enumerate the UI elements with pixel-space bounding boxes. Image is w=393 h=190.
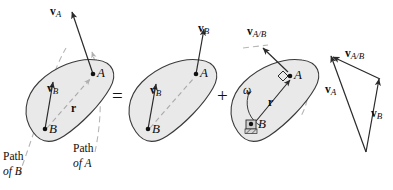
label-vb-panel1: vB xyxy=(47,83,58,96)
rotation-guide-dash-left xyxy=(243,45,268,48)
point-a-dot-2 xyxy=(194,72,199,77)
operator-plus: + xyxy=(217,86,228,105)
label-path-of-b-line2: of B xyxy=(3,166,22,178)
point-b-dot-3 xyxy=(249,122,253,126)
rigid-body-outline-3 xyxy=(231,59,319,141)
point-a-dot-1 xyxy=(91,72,96,77)
operator-equals: = xyxy=(112,86,123,105)
label-point-a-panel1: A xyxy=(97,66,105,79)
label-vb-at-b-panel2: vB xyxy=(150,85,161,98)
label-vb-triangle: vB xyxy=(371,108,382,121)
label-r-panel1: r xyxy=(71,103,76,115)
label-path-of-b-line1: Path xyxy=(3,151,23,163)
label-vab-triangle: vA/B xyxy=(345,48,364,61)
point-b-dot-1 xyxy=(43,127,48,132)
label-vb-at-a-panel2: vB xyxy=(198,23,209,36)
panel-translation xyxy=(129,29,217,141)
label-point-b-panel2: B xyxy=(152,122,160,135)
relative-velocity-figure: vA vB r A B Path of B Path of A = vB vB … xyxy=(0,0,393,190)
label-va-panel1: vA xyxy=(50,6,61,19)
panel-general-plane-motion xyxy=(19,12,114,175)
panel-vector-triangle xyxy=(331,56,380,152)
label-point-a-panel2: A xyxy=(200,66,208,79)
label-point-a-panel3: A xyxy=(294,68,302,81)
label-va-triangle: vA xyxy=(325,84,336,97)
label-r-panel3: r xyxy=(268,97,273,109)
label-path-of-a-line1: Path xyxy=(73,143,93,155)
label-point-b-panel3: B xyxy=(258,117,266,130)
label-vab-panel3: vA/B xyxy=(247,26,266,39)
label-omega: ω xyxy=(243,85,251,97)
point-b-dot-2 xyxy=(146,127,151,132)
label-path-of-a-line2: of A xyxy=(73,158,92,170)
point-a-dot-3 xyxy=(288,74,293,79)
pin-support-hatch xyxy=(245,129,257,134)
label-point-b-panel1: B xyxy=(49,122,57,135)
